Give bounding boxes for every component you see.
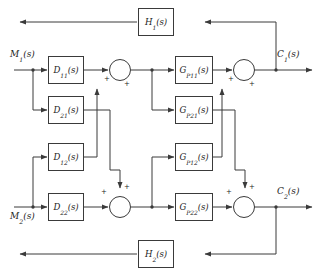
- node-m1-tap: [31, 68, 34, 71]
- wire-gp12-to-sum2: [212, 89, 222, 157]
- block-gp12-label: GP12(s): [180, 152, 209, 162]
- block-d22[interactable]: D22(s): [48, 193, 84, 221]
- block-gp21[interactable]: GP21(s): [175, 96, 213, 124]
- block-gp11[interactable]: GP11(s): [175, 56, 213, 84]
- summing-junction-1[interactable]: [109, 59, 131, 81]
- sum2-left-sign: +: [228, 76, 234, 83]
- node-sum1-branch: [150, 68, 153, 71]
- block-d12-label: D12(s): [53, 152, 78, 162]
- block-h2[interactable]: H2(s): [138, 240, 174, 268]
- summing-junction-2[interactable]: [233, 59, 255, 81]
- block-h1[interactable]: H1(s): [138, 8, 174, 36]
- wire-d21-to-sum3: [83, 110, 120, 188]
- block-d21-label: D21(s): [53, 105, 78, 115]
- block-gp22-label: GP22(s): [180, 202, 209, 212]
- wire-branch-to-gp12: [152, 157, 174, 207]
- signal-label-c1: C1(s): [277, 49, 299, 59]
- sum3-left-sign: +: [101, 189, 107, 196]
- sum1-bottom-sign: +: [124, 81, 130, 88]
- signal-label-m2: M2(s): [10, 211, 35, 221]
- sum4-top-sign: +: [249, 184, 255, 191]
- wire-m2-tap-to-d12: [33, 157, 47, 207]
- block-d11[interactable]: D11(s): [48, 56, 84, 84]
- node-m2-tap: [31, 205, 34, 208]
- wire-m1-tap-to-d21: [33, 70, 47, 110]
- wire-d12-to-sum1: [83, 89, 97, 157]
- block-d22-label: D22(s): [53, 202, 78, 212]
- node-c2-tap: [274, 205, 277, 208]
- sum1-left-sign: +: [104, 76, 110, 83]
- block-h1-label: H1(s): [145, 17, 167, 27]
- summing-junction-4[interactable]: [233, 196, 255, 218]
- wire-branch-to-gp21: [152, 70, 174, 110]
- wire-layer: [0, 0, 321, 276]
- summing-junction-3[interactable]: [109, 196, 131, 218]
- sum2-bottom-sign: +: [249, 81, 255, 88]
- block-gp11-label: GP11(s): [180, 65, 209, 75]
- block-gp12[interactable]: GP12(s): [175, 143, 213, 171]
- block-gp22[interactable]: GP22(s): [175, 193, 213, 221]
- sum3-top-sign: +: [124, 184, 130, 191]
- wire-gp21-to-sum4: [212, 110, 245, 188]
- node-c1-tap: [274, 68, 277, 71]
- block-h2-label: H2(s): [145, 249, 167, 259]
- block-gp21-label: GP21(s): [180, 105, 209, 115]
- signal-label-m1: M1(s): [10, 49, 35, 59]
- block-d21[interactable]: D21(s): [48, 96, 84, 124]
- node-sum3-branch: [150, 205, 153, 208]
- signal-label-c2: C2(s): [277, 186, 299, 196]
- block-diagram-canvas: D11(s) D21(s) D12(s) D22(s) GP11(s) GP21…: [0, 0, 321, 276]
- block-d12[interactable]: D12(s): [48, 143, 84, 171]
- block-d11-label: D11(s): [53, 65, 78, 75]
- sum4-left-sign: +: [226, 189, 232, 196]
